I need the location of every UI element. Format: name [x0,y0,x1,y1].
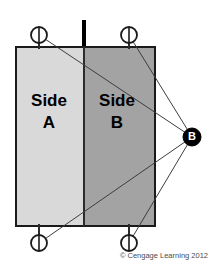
door-diagram-svg: Side A Side B B © Cengage Learning 2012 [0,0,214,271]
panel-side-b [84,47,155,226]
side-b-label-line1: Side [99,91,135,110]
copyright-notice: © Cengage Learning 2012 [120,251,208,260]
side-b-label-line2: B [111,113,123,132]
point-b-label: B [188,130,196,142]
side-a-label-line2: A [43,113,55,132]
figure-container: Side A Side B B © Cengage Learning 2012 [0,0,214,271]
side-a-label-line1: Side [31,91,67,110]
panel-side-a [16,47,84,226]
